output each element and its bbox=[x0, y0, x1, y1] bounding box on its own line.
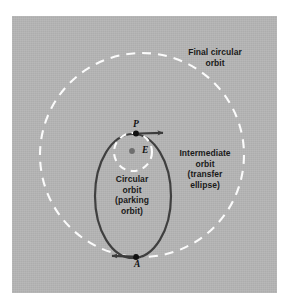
label-point-e: E bbox=[142, 145, 148, 155]
velocity-arrow-at-P bbox=[139, 133, 163, 134]
label-point-a: A bbox=[134, 259, 140, 269]
figure-root: Final circular orbit Intermediate orbit … bbox=[0, 0, 291, 308]
label-final-circular-orbit: Final circular orbit bbox=[176, 47, 254, 68]
label-point-p: P bbox=[133, 119, 139, 129]
label-intermediate-orbit: Intermediate orbit (transfer ellipse) bbox=[172, 148, 238, 190]
label-circular-parking-orbit: Circular orbit (parking orbit) bbox=[100, 174, 164, 216]
velocity-arrow-at-A bbox=[112, 256, 133, 257]
point-E-marker bbox=[129, 148, 135, 154]
point-P-marker bbox=[133, 131, 139, 137]
